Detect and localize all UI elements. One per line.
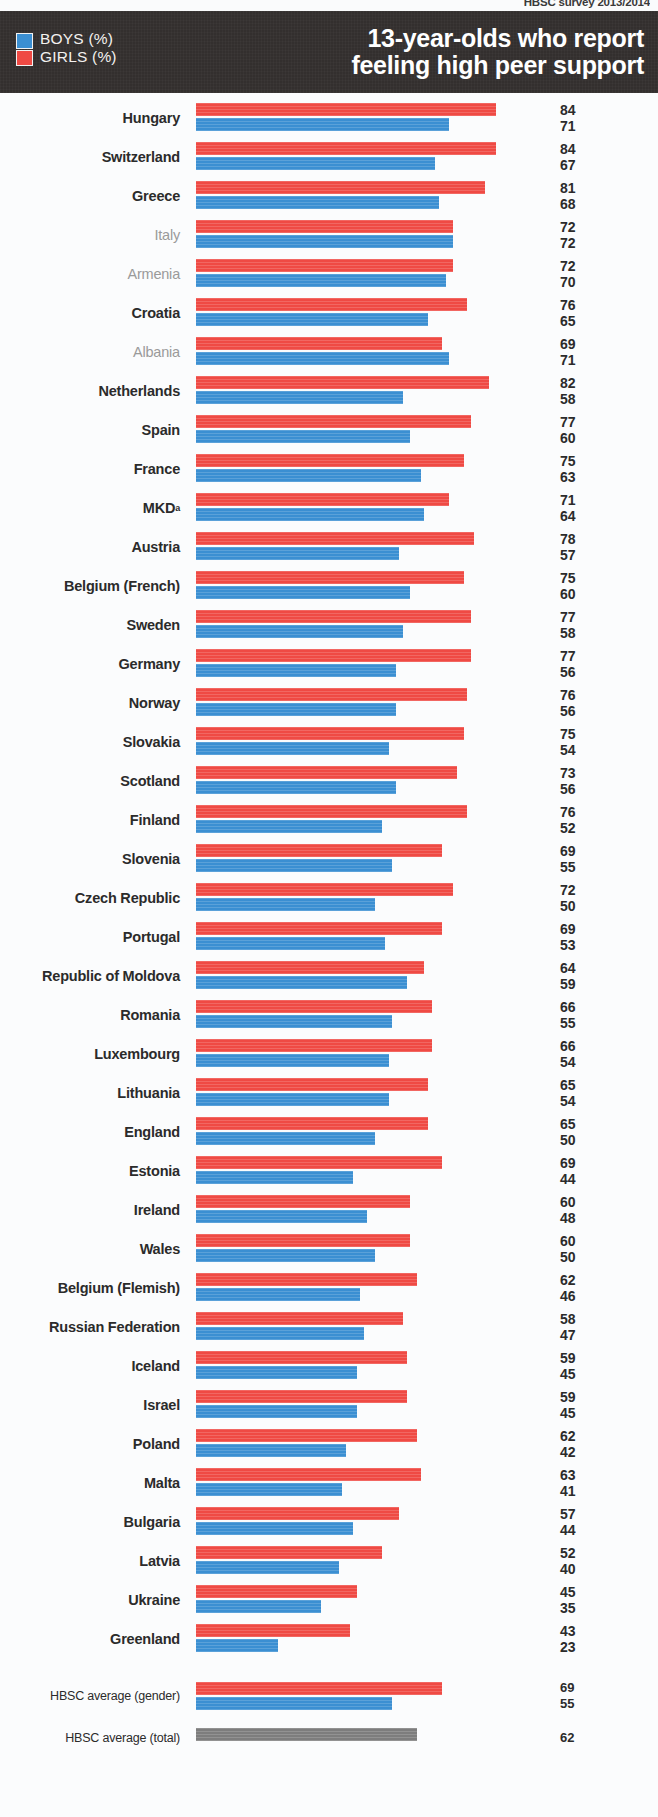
bar-group	[196, 258, 526, 290]
country-label: Spain	[0, 410, 180, 450]
girls-value: 66	[560, 1038, 576, 1054]
legend-label-girls: GIRLS (%)	[40, 48, 117, 66]
value-labels: 6955	[560, 839, 620, 879]
average-boys-value: 55	[560, 1696, 574, 1712]
bar-group	[196, 882, 526, 914]
bar-group	[196, 453, 526, 485]
girls-bar	[196, 337, 442, 350]
chart-row: MKDa7164	[0, 488, 658, 528]
girls-value: 82	[560, 375, 576, 391]
girls-value: 76	[560, 687, 576, 703]
girls-value: 72	[560, 882, 576, 898]
value-labels: 5240	[560, 1541, 620, 1581]
girls-bar	[196, 1156, 442, 1169]
boys-bar	[196, 781, 396, 794]
boys-bar	[196, 1444, 346, 1457]
girls-bar	[196, 415, 471, 428]
country-label: Estonia	[0, 1151, 180, 1191]
value-labels: 7652	[560, 800, 620, 840]
boys-bar	[196, 1249, 375, 1262]
chart-row: Ukraine4535	[0, 1580, 658, 1620]
chart-header-band: BOYS (%) GIRLS (%) 13-year-olds who repo…	[0, 11, 658, 93]
boys-value: 45	[560, 1366, 576, 1382]
country-label: Belgium (French)	[0, 566, 180, 606]
bar-group	[196, 1584, 526, 1616]
boys-bar	[196, 1483, 342, 1496]
value-labels: 6971	[560, 332, 620, 372]
bar-group	[196, 414, 526, 446]
boys-value: 44	[560, 1522, 576, 1538]
boys-bar	[196, 1171, 353, 1184]
chart-row: Malta6341	[0, 1463, 658, 1503]
average-total-bar	[196, 1728, 417, 1741]
girls-value: 60	[560, 1233, 576, 1249]
boys-value: 41	[560, 1483, 576, 1499]
value-labels: 6944	[560, 1151, 620, 1191]
chart-row: Croatia7665	[0, 293, 658, 333]
boys-value: 50	[560, 1132, 576, 1148]
girls-value: 72	[560, 219, 576, 235]
country-label: Slovakia	[0, 722, 180, 762]
boys-value: 71	[560, 352, 576, 368]
boys-bar	[196, 1132, 375, 1145]
girls-bar	[196, 649, 471, 662]
boys-bar	[196, 313, 428, 326]
chart-row: Israel5945	[0, 1385, 658, 1425]
value-labels: 4323	[560, 1619, 620, 1659]
chart-row: Scotland7356	[0, 761, 658, 801]
boys-value: 58	[560, 625, 576, 641]
bar-group	[196, 1506, 526, 1538]
girls-value: 65	[560, 1116, 576, 1132]
boys-value: 52	[560, 820, 576, 836]
girls-bar	[196, 1429, 417, 1442]
girls-value: 43	[560, 1623, 576, 1639]
girls-value: 59	[560, 1389, 576, 1405]
value-labels: 7760	[560, 410, 620, 450]
girls-value: 69	[560, 336, 576, 352]
value-labels: 6554	[560, 1073, 620, 1113]
chart-row: Slovakia7554	[0, 722, 658, 762]
chart-row: Belgium (French)7560	[0, 566, 658, 606]
boys-value: 45	[560, 1405, 576, 1421]
value-labels: 4535	[560, 1580, 620, 1620]
bar-group	[196, 648, 526, 680]
boys-value: 56	[560, 703, 576, 719]
bar-group	[196, 141, 526, 173]
chart-title: 13-year-olds who report feeling high pee…	[351, 25, 644, 79]
bar-group	[196, 1233, 526, 1265]
boys-value: 42	[560, 1444, 576, 1460]
girls-value: 78	[560, 531, 576, 547]
boys-bar	[196, 703, 396, 716]
legend-swatches	[16, 30, 33, 66]
average-total-value: 62	[560, 1730, 574, 1746]
country-label: Austria	[0, 527, 180, 567]
boys-value: 57	[560, 547, 576, 563]
chart-row: Estonia6944	[0, 1151, 658, 1191]
girls-value: 66	[560, 999, 576, 1015]
chart-row: Poland6242	[0, 1424, 658, 1464]
country-label: Poland	[0, 1424, 180, 1464]
boys-bar	[196, 664, 396, 677]
boys-bar	[196, 820, 382, 833]
girls-bar	[196, 259, 453, 272]
value-labels: 7560	[560, 566, 620, 606]
country-label: Albania	[0, 332, 180, 372]
value-labels: 6246	[560, 1268, 620, 1308]
bar-group	[196, 1272, 526, 1304]
boys-bar	[196, 1600, 321, 1613]
country-label: Greece	[0, 176, 180, 216]
boys-value: 48	[560, 1210, 576, 1226]
country-label: Ukraine	[0, 1580, 180, 1620]
girls-value: 75	[560, 570, 576, 586]
country-label: Norway	[0, 683, 180, 723]
girls-value: 77	[560, 414, 576, 430]
boys-value: 50	[560, 1249, 576, 1265]
country-label: Russian Federation	[0, 1307, 180, 1347]
value-labels: 6655	[560, 995, 620, 1035]
country-label: Portugal	[0, 917, 180, 957]
average-value-labels: 6955	[560, 1676, 620, 1716]
chart-row: Armenia7270	[0, 254, 658, 294]
chart-row: Luxembourg6654	[0, 1034, 658, 1074]
girls-bar	[196, 103, 496, 116]
boys-bar	[196, 1054, 389, 1067]
